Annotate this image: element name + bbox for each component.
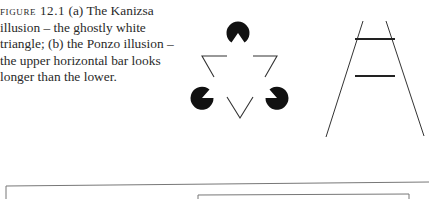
pacman-left — [191, 87, 214, 110]
pacman-right — [265, 87, 288, 110]
triangle-corner-right — [253, 56, 277, 77]
outer-frame-top — [6, 182, 429, 199]
triangle-corner-left — [202, 56, 227, 77]
triangle-corner-bottom — [227, 97, 253, 118]
figure-illustrations — [0, 0, 429, 199]
inner-frame-top — [198, 194, 409, 199]
next-figure-frame — [6, 182, 429, 199]
pacman-top — [227, 22, 250, 43]
ponzo-illusion — [326, 21, 424, 137]
kanizsa-illusion — [191, 22, 289, 118]
